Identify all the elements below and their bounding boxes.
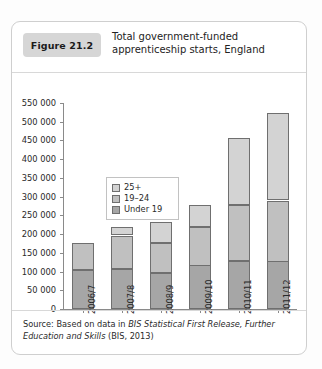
y-axis-tick xyxy=(60,272,63,273)
source-prefix: Source: Based on data in xyxy=(23,319,128,329)
chart-plot-area: 25+19–24Under 19 550 000500 000450 00040… xyxy=(12,73,306,323)
chart-bar-segment xyxy=(189,205,211,227)
y-axis-tick-label: 350 000 xyxy=(12,173,56,183)
chart-bar-segment xyxy=(267,201,289,262)
x-axis-category-label: 2009/10 xyxy=(204,280,214,314)
y-axis-tick xyxy=(60,103,63,104)
y-axis-tick-label: 250 000 xyxy=(12,210,56,220)
y-axis-tick xyxy=(60,197,63,198)
y-axis-tick-label: 200 000 xyxy=(12,229,56,239)
figure-header: Figure 21.2 Total government-funded appr… xyxy=(12,22,306,73)
y-axis-tick xyxy=(60,290,63,291)
figure-source-footer: Source: Based on data in BIS Statistical… xyxy=(12,310,306,354)
y-axis-tick-label: 450 000 xyxy=(12,135,56,145)
y-axis-tick xyxy=(60,140,63,141)
chart-bar-segment xyxy=(150,222,172,243)
x-axis-category-label: 2010/11 xyxy=(243,280,253,314)
figure-number-badge: Figure 21.2 xyxy=(23,33,101,57)
chart-bar-segment xyxy=(228,138,250,205)
chart-bar xyxy=(150,103,172,310)
source-suffix: (BIS, 2013) xyxy=(105,331,153,341)
y-axis-tick xyxy=(60,178,63,179)
y-axis-tick-label: 550 000 xyxy=(12,98,56,108)
y-axis-tick-label: 300 000 xyxy=(12,192,56,202)
y-axis-tick xyxy=(60,253,63,254)
figure-title: Total government-funded apprenticeship s… xyxy=(112,31,298,56)
chart-bar xyxy=(111,103,133,310)
y-axis-tick xyxy=(60,215,63,216)
source-note: Source: Based on data in BIS Statistical… xyxy=(23,319,297,342)
y-axis-tick xyxy=(60,159,63,160)
chart-bar-segment xyxy=(267,113,289,200)
y-axis-tick xyxy=(60,122,63,123)
x-axis-category-label: 2011/12 xyxy=(282,280,292,314)
chart-bar-segment xyxy=(111,236,133,269)
y-axis-tick-label: 400 000 xyxy=(12,154,56,164)
chart-bar-segment xyxy=(150,243,172,273)
y-axis-tick-label: 50 000 xyxy=(12,285,56,295)
chart-bar-segment xyxy=(111,227,133,235)
figure-card: Figure 21.2 Total government-funded appr… xyxy=(11,21,307,355)
chart-bar-segment xyxy=(228,205,250,261)
chart-bar-segment xyxy=(72,243,94,270)
y-axis-tick-label: 100 000 xyxy=(12,267,56,277)
chart-bar xyxy=(72,103,94,310)
y-axis-tick xyxy=(60,234,63,235)
figure-page: Figure 21.2 Total government-funded appr… xyxy=(0,0,322,369)
y-axis-tick-label: 150 000 xyxy=(12,248,56,258)
y-axis-tick-label: 500 000 xyxy=(12,117,56,127)
y-axis-line xyxy=(63,103,64,310)
chart-bar-segment xyxy=(189,227,211,266)
